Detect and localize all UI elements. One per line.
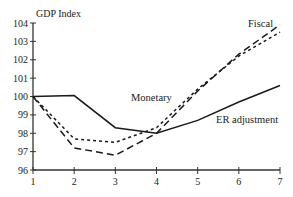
x-tick-label: 6 — [236, 176, 241, 187]
y-tick-label: 102 — [13, 54, 28, 65]
y-tick-label: 98 — [18, 128, 28, 139]
x-tick-label: 7 — [278, 176, 283, 187]
line-chart: 969798991001011021031041234567 GDP Index… — [0, 0, 293, 197]
series-label-fiscal: Fiscal — [248, 18, 273, 29]
x-tick-label: 5 — [195, 176, 200, 187]
series-line-fiscal — [33, 25, 280, 156]
y-tick-label: 96 — [18, 165, 28, 176]
y-axis-label: GDP Index — [36, 8, 81, 19]
y-tick-label: 104 — [13, 18, 28, 29]
y-tick-label: 100 — [13, 91, 28, 102]
x-tick-label: 4 — [154, 176, 159, 187]
y-tick-label: 103 — [13, 36, 28, 47]
y-tick-label: 99 — [18, 109, 28, 120]
series-label-er-adjustment: ER adjustment — [216, 114, 278, 125]
y-tick-label: 97 — [18, 146, 28, 157]
x-tick-label: 2 — [72, 176, 77, 187]
series-line-monetary — [33, 32, 280, 142]
x-tick-label: 3 — [113, 176, 118, 187]
y-tick-label: 101 — [13, 73, 28, 84]
series-group — [33, 25, 280, 156]
x-tick-label: 1 — [31, 176, 36, 187]
series-label-monetary: Monetary — [131, 92, 173, 103]
